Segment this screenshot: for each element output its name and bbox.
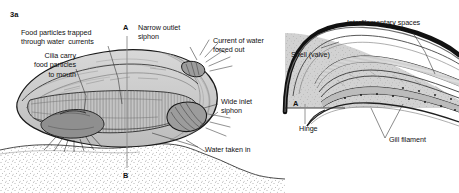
label-hinge: Hinge: [299, 124, 333, 133]
label-gill-filament: Gill filament: [389, 135, 455, 144]
panel-3a: 3a Food particles trapped through water …: [0, 0, 285, 193]
label-current-of-water-forced-out: Current of water forced out: [213, 36, 285, 55]
label-shell-valve: Shell (valve): [291, 50, 349, 59]
label-narrow-outlet-siphon: Narrow outlet siphon: [138, 23, 204, 42]
section-marker-a: A: [123, 24, 128, 31]
label-interfilamentary-spaces: Interfilamentary spaces: [347, 18, 459, 27]
section-marker-b: B: [123, 172, 128, 179]
panel-3b: 3b Interfilamentary spaces Shell (valve)…: [285, 0, 459, 193]
section-marker-a-3b: A: [293, 100, 298, 107]
wide-inlet-siphon-shape: [167, 102, 207, 132]
label-wide-inlet-siphon: Wide inlet siphon: [221, 97, 277, 116]
lower-gill-shadow: [311, 107, 459, 126]
panel-key-3a: 3a: [10, 11, 18, 19]
label-food-particles-trapped: Food particles trapped through water cur…: [21, 28, 126, 47]
label-cilia-carry-food: Cilia carry food particles to mouth: [2, 51, 76, 79]
figure-mussel-feeding: 3a Food particles trapped through water …: [0, 0, 459, 193]
label-water-taken-in: Water taken in: [205, 145, 281, 154]
panel-3b-artwork: [285, 0, 459, 193]
